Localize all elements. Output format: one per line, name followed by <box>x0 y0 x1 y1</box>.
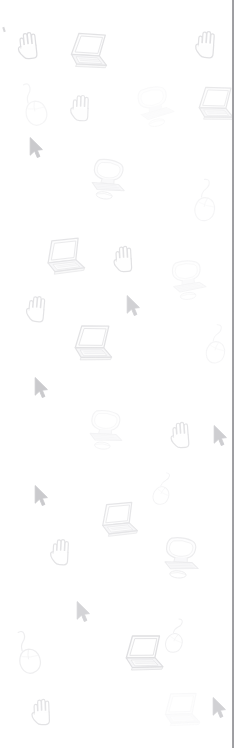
hand-cursor-icon <box>21 290 55 326</box>
computer-mouse-icon <box>9 626 51 679</box>
hand-cursor-icon <box>65 89 97 123</box>
hand-cursor-icon <box>165 416 198 451</box>
computer-mouse-icon <box>151 611 205 664</box>
arrow-cursor-icon <box>211 696 227 720</box>
hand-cursor-icon <box>26 693 58 727</box>
left-edge-speck <box>2 27 5 32</box>
laptop-icon <box>116 631 168 679</box>
arrow-cursor-icon <box>33 484 49 508</box>
laptop-icon <box>37 235 89 282</box>
arrow-cursor-icon <box>125 294 141 318</box>
desktop-computer-icon <box>80 406 131 455</box>
arrow-cursor-icon <box>28 136 44 160</box>
hand-cursor-icon <box>45 533 78 568</box>
arrow-cursor-icon <box>212 424 228 448</box>
desktop-computer-icon <box>127 80 183 134</box>
arrow-cursor-icon <box>75 600 91 624</box>
computer-mouse-icon <box>14 77 58 131</box>
laptop-icon <box>92 499 141 543</box>
arrow-cursor-icon <box>33 376 49 400</box>
laptop-icon <box>64 320 117 368</box>
laptop-icon <box>60 27 115 77</box>
vertical-divider-line <box>232 0 234 748</box>
hand-cursor-icon <box>11 25 46 62</box>
laptop-icon <box>155 689 204 733</box>
computer-mouse-icon <box>139 465 191 516</box>
desktop-computer-icon <box>81 154 135 205</box>
desktop-computer-icon <box>163 256 213 305</box>
desktop-computer-icon <box>155 532 207 584</box>
computer-mouse-icon <box>197 318 242 372</box>
computer-mouse-icon <box>185 174 231 227</box>
hand-cursor-icon <box>190 25 224 61</box>
hand-cursor-icon <box>108 240 141 275</box>
desktop-icon-pattern-canvas <box>0 0 247 748</box>
